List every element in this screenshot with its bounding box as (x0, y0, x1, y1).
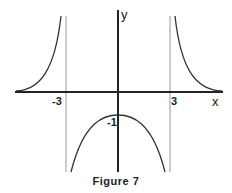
tick-label-3: 3 (171, 95, 177, 107)
function-graph: y x -3 3 -1 (0, 0, 232, 193)
figure-caption: Figure 7 (0, 175, 232, 187)
tick-label-neg3: -3 (52, 95, 62, 107)
x-axis-label: x (212, 94, 219, 109)
y-axis-label: y (121, 7, 128, 22)
curve-right-branch (175, 16, 222, 91)
curve-left-branch (16, 16, 61, 91)
tick-label-neg1: -1 (107, 116, 117, 128)
